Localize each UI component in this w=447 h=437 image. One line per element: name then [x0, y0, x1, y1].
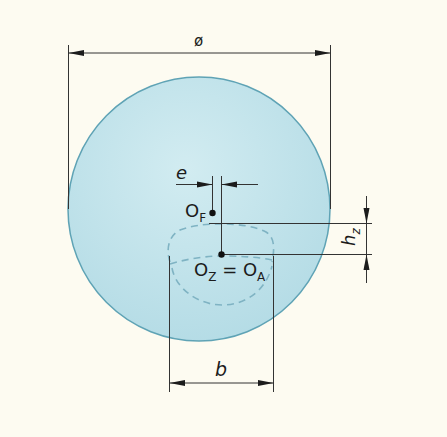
point-oz-letter: O	[194, 259, 208, 280]
height-subscript: z	[349, 228, 363, 234]
point-oz-oa-dot	[218, 251, 224, 257]
point-of-letter: O	[185, 200, 199, 221]
width-label: b	[215, 360, 227, 379]
eccentricity-label: e	[176, 164, 187, 182]
point-oz-subscript: Z	[208, 270, 216, 284]
point-oz-oa-label: OZ = OA	[194, 261, 265, 279]
height-label: hz	[340, 228, 358, 246]
point-oa-letter: O	[243, 259, 257, 280]
point-of-far-dot	[209, 210, 215, 216]
equals-sign: =	[216, 259, 243, 280]
point-of-label: OF	[185, 202, 206, 220]
lens-diagram: ø e OF OZ = OA hz b	[0, 0, 447, 437]
diameter-label: ø	[194, 34, 203, 49]
height-letter: h	[338, 235, 359, 246]
point-of-subscript: F	[199, 211, 206, 225]
point-oa-subscript: A	[257, 270, 265, 284]
